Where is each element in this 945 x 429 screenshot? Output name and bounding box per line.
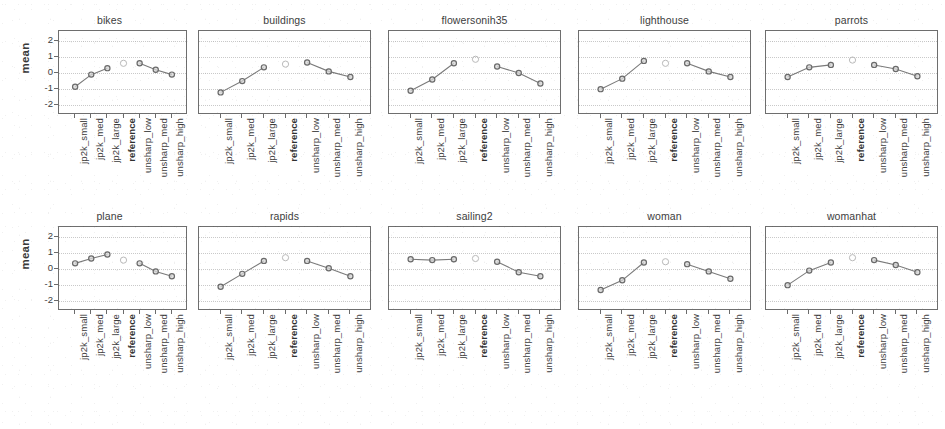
x-axis: jp2k_smalljp2k_medjp2k_largereferenceuns…	[58, 118, 187, 214]
plot-area	[388, 226, 561, 310]
x-tick-mark	[171, 310, 172, 314]
data-point	[872, 258, 877, 263]
data-point	[785, 283, 790, 288]
x-tick-mark	[643, 114, 644, 118]
x-tick-label-jp2k_large: jp2k_large	[833, 118, 844, 163]
x-tick-mark	[686, 310, 687, 314]
x-tick-mark	[475, 114, 476, 118]
y-tick-label: -2	[45, 296, 53, 306]
data-point	[153, 269, 158, 274]
panel-title: lighthouse	[570, 14, 759, 26]
series-layer	[389, 227, 562, 311]
y-tick-label: 0	[48, 67, 53, 77]
data-point	[620, 278, 625, 283]
plot-area	[578, 226, 751, 310]
data-point	[472, 56, 478, 62]
panel-buildings: buildingsjp2k_smalljp2k_medjp2k_largeref…	[190, 14, 379, 214]
x-axis: jp2k_smalljp2k_medjp2k_largereferenceuns…	[578, 314, 751, 410]
x-tick-label-jp2k_small: jp2k_small	[413, 118, 424, 164]
x-tick-mark	[830, 310, 831, 314]
x-tick-mark	[916, 310, 917, 314]
panel-title: parrots	[757, 14, 945, 26]
data-point	[598, 287, 603, 292]
series-layer	[766, 31, 939, 115]
data-point	[893, 66, 898, 71]
data-point	[218, 284, 223, 289]
x-tick-mark	[74, 114, 75, 118]
x-tick-label-jp2k_large: jp2k_large	[833, 314, 844, 359]
x-tick-mark	[220, 310, 221, 314]
y-axis-label: mean	[19, 234, 31, 274]
x-tick-label-jp2k_large: jp2k_large	[456, 314, 467, 359]
x-tick-label-unsharp_med: unsharp_med	[331, 314, 342, 373]
data-point	[282, 61, 288, 67]
x-tick-mark	[708, 114, 709, 118]
data-point	[451, 61, 456, 66]
x-tick-mark	[155, 114, 156, 118]
data-point	[538, 274, 543, 279]
data-point	[408, 257, 413, 262]
plot-area	[198, 226, 371, 310]
series-line	[788, 263, 831, 286]
data-point	[915, 74, 920, 79]
data-point	[137, 61, 142, 66]
data-point	[240, 78, 245, 83]
x-tick-label-reference: reference	[126, 314, 137, 358]
x-tick-label-jp2k_small: jp2k_small	[78, 314, 89, 360]
x-tick-label-reference: reference	[288, 118, 299, 162]
x-tick-label-jp2k_med: jp2k_med	[245, 118, 256, 160]
x-tick-mark	[729, 310, 730, 314]
x-tick-mark	[600, 114, 601, 118]
x-tick-mark	[410, 310, 411, 314]
x-tick-label-unsharp_high: unsharp_high	[920, 118, 931, 177]
x-tick-mark	[873, 114, 874, 118]
x-tick-label-unsharp_med: unsharp_med	[158, 314, 169, 373]
y-axis: mean210-1-2	[14, 30, 58, 114]
y-axis-label: mean	[19, 38, 31, 78]
data-point	[218, 90, 223, 95]
panel-womanhat: womanhatjp2k_smalljp2k_medjp2k_largerefe…	[757, 210, 945, 410]
x-axis: jp2k_smalljp2k_medjp2k_largereferenceuns…	[198, 314, 371, 410]
data-point	[430, 258, 435, 263]
x-tick-label-jp2k_large: jp2k_large	[110, 314, 121, 359]
data-point	[662, 60, 668, 66]
x-tick-label-reference: reference	[855, 118, 866, 162]
x-tick-label-unsharp_med: unsharp_med	[898, 118, 909, 177]
x-tick-mark	[518, 114, 519, 118]
panel-title: bikes	[30, 14, 189, 26]
x-tick-label-jp2k_large: jp2k_large	[646, 314, 657, 359]
data-point	[728, 276, 733, 281]
data-point	[685, 262, 690, 267]
data-point	[348, 274, 353, 279]
x-tick-label-jp2k_small: jp2k_small	[78, 118, 89, 164]
x-tick-label-unsharp_low: unsharp_low	[310, 118, 321, 173]
x-tick-label-unsharp_low: unsharp_low	[690, 118, 701, 173]
panel-title: rapids	[190, 210, 379, 222]
x-tick-label-unsharp_high: unsharp_high	[174, 314, 185, 373]
y-tick-label: 2	[48, 35, 53, 45]
data-point	[807, 268, 812, 273]
data-point	[685, 61, 690, 66]
series-line	[601, 263, 644, 290]
data-point	[872, 62, 877, 67]
x-axis: jp2k_smalljp2k_medjp2k_largereferenceuns…	[198, 118, 371, 214]
data-point	[261, 65, 266, 70]
data-point	[89, 256, 94, 261]
x-tick-mark	[328, 310, 329, 314]
x-tick-mark	[621, 310, 622, 314]
y-tick-label: 0	[48, 263, 53, 273]
x-tick-label-jp2k_med: jp2k_med	[812, 314, 823, 356]
y-tick-label: 1	[48, 247, 53, 257]
x-tick-mark	[431, 310, 432, 314]
x-tick-mark	[123, 114, 124, 118]
x-tick-label-unsharp_low: unsharp_low	[877, 118, 888, 173]
panel-parrots: parrotsjp2k_smalljp2k_medjp2k_largerefer…	[757, 14, 945, 214]
x-tick-label-jp2k_small: jp2k_small	[790, 314, 801, 360]
x-tick-label-unsharp_high: unsharp_high	[543, 314, 554, 373]
series-layer	[59, 31, 188, 115]
data-point	[662, 259, 668, 265]
x-tick-mark	[808, 114, 809, 118]
series-layer	[766, 227, 939, 311]
data-point	[305, 258, 310, 263]
x-tick-mark	[285, 114, 286, 118]
